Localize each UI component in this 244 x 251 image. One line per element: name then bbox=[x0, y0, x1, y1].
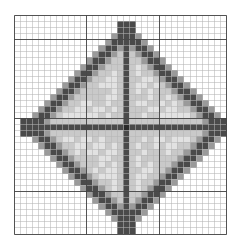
rasterized-diamond-canvas bbox=[0, 0, 244, 251]
raster-figure bbox=[0, 0, 244, 251]
